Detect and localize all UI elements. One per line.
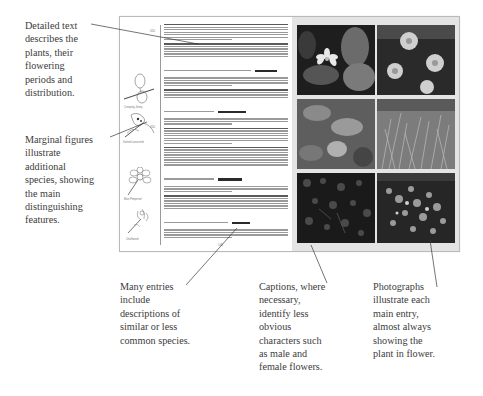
marginal-figure-chaffweed: Chaffweed	[122, 205, 156, 245]
margin-column: Creeping-Jenny 410 Dotted Loosestrife 41…	[120, 17, 159, 251]
annotation-line: similar or less	[120, 320, 210, 333]
annotation-line: the main	[25, 187, 125, 200]
book-spread: Creeping-Jenny 410 Dotted Loosestrife 41…	[119, 16, 460, 252]
annotation-detailed-text: Detailed text describes the plants, thei…	[25, 19, 120, 99]
species-text-column	[164, 23, 288, 241]
annotation-line: plant in flower.	[373, 347, 473, 360]
photo-image	[297, 99, 375, 169]
column-rule	[160, 25, 161, 245]
photo-image	[297, 25, 375, 95]
annotation-line: plants, their	[25, 46, 120, 59]
annotation-line: distribution.	[25, 86, 120, 99]
photo-page: Chickweed Wintergreen Yellow Pimpernel	[292, 17, 459, 251]
photo-image	[377, 25, 455, 95]
annotation-many-entries: Many entries include descriptions of sim…	[120, 280, 210, 347]
annotation-line: Marginal figures	[25, 133, 125, 146]
photo-image	[297, 173, 375, 243]
marginal-figure-creeping-jenny: Creeping-Jenny	[122, 71, 156, 111]
figure-caption: Blue Pimpernel	[124, 198, 142, 201]
folio-number: 410	[150, 125, 155, 129]
annotation-line: Captions, where	[259, 280, 349, 293]
annotation-line: features.	[25, 213, 125, 226]
species-entry	[164, 147, 288, 192]
annotation-line: describes the	[25, 32, 120, 45]
photo-yellow-loosestrife: Yellow Loosestrife	[297, 99, 375, 169]
annotation-line: as male and	[259, 347, 349, 360]
annotation-line: species, showing	[25, 173, 125, 186]
species-entry	[164, 43, 288, 86]
species-entry	[164, 24, 288, 40]
annotation-line: common species.	[120, 334, 210, 347]
photo-chickweed-wintergreen: Chickweed Wintergreen	[297, 25, 375, 95]
annotation-line: Many entries	[120, 280, 210, 293]
photo-image	[377, 173, 455, 243]
annotation-line: main entry,	[373, 307, 473, 320]
annotation-line: characters such	[259, 334, 349, 347]
annotation-line: descriptions of	[120, 307, 210, 320]
annotation-line: Detailed text	[25, 19, 120, 32]
annotation-line: obvious	[259, 320, 349, 333]
annotation-line: showing the	[373, 334, 473, 347]
page-number: 140	[218, 243, 223, 247]
annotation-line: identify less	[259, 307, 349, 320]
annotation-captions: Captions, where necessary, identify less…	[259, 280, 349, 374]
annotation-line: include	[120, 293, 210, 306]
photo-scarlet-pimpernel: Scarlet Pimpernel	[297, 173, 375, 243]
annotation-line: illustrate each	[373, 293, 473, 306]
figure-caption: Chaffweed	[126, 238, 138, 241]
annotation-line: flowering	[25, 59, 120, 72]
marginal-figure-blue-pimpernel: Blue Pimpernel	[122, 167, 156, 203]
species-entry	[164, 89, 288, 124]
creeping-jenny-drawing-icon	[122, 71, 156, 105]
species-entry	[164, 195, 288, 238]
chaffweed-drawing-icon	[122, 205, 156, 237]
annotation-line: additional	[25, 160, 125, 173]
blue-pimpernel-drawing-icon	[122, 167, 156, 197]
photo-yellow-pimpernel: Yellow Pimpernel	[377, 25, 455, 95]
annotation-line: illustrate	[25, 146, 125, 159]
species-entry	[164, 128, 288, 144]
photo-image	[377, 99, 455, 169]
annotation-line: distinguishing	[25, 200, 125, 213]
annotation-line: Photographs	[373, 280, 473, 293]
figure-caption: Dotted Loosestrife	[123, 141, 144, 144]
photo-tufted-loosestrife: Tufted Loosestrife	[377, 99, 455, 169]
annotation-line: female flowers.	[259, 360, 349, 373]
folio-number: 410	[150, 29, 155, 33]
annotation-line: necessary,	[259, 293, 349, 306]
annotation-line: almost always	[373, 320, 473, 333]
annotation-photographs: Photographs illustrate each main entry, …	[373, 280, 473, 360]
text-page: Creeping-Jenny 410 Dotted Loosestrife 41…	[120, 17, 292, 251]
annotation-marginal-figures: Marginal figures illustrate additional s…	[25, 133, 125, 227]
annotation-line: periods and	[25, 73, 120, 86]
photo-bog-pimpernel: Bog Pimpernel	[377, 173, 455, 243]
